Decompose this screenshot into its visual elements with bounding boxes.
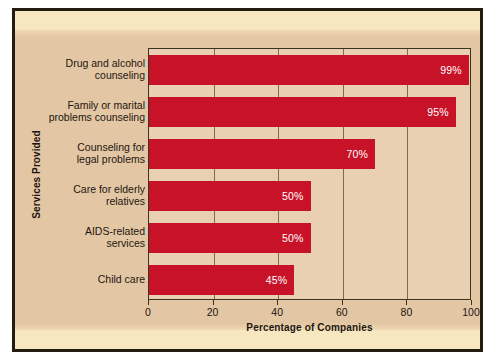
x-tick-label: 40 xyxy=(271,306,283,318)
bar: 95% xyxy=(149,97,456,127)
bar-value-label: 99% xyxy=(440,64,462,76)
x-tick-label: 100 xyxy=(462,306,480,318)
gridline xyxy=(343,49,344,299)
bar-value-label: 45% xyxy=(266,274,288,286)
bar: 50% xyxy=(149,181,311,211)
x-tick-label: 20 xyxy=(207,306,219,318)
bar-value-label: 50% xyxy=(282,190,304,202)
gridline xyxy=(407,49,408,299)
x-tick-mark xyxy=(148,300,149,305)
bar: 70% xyxy=(149,139,375,169)
bar: 99% xyxy=(149,55,469,85)
bar-value-label: 50% xyxy=(282,232,304,244)
gridline xyxy=(278,49,279,299)
x-tick-mark xyxy=(213,300,214,305)
gridline xyxy=(214,49,215,299)
y-axis-tick-label: Child care xyxy=(33,273,145,286)
x-tick-label: 60 xyxy=(336,306,348,318)
y-axis-tick-label: Family or marital problems counseling xyxy=(33,99,145,124)
x-tick-mark xyxy=(342,300,343,305)
y-axis-tick-label: Care for elderly relatives xyxy=(33,183,145,208)
bar-chart: Services Provided Drug and alcohol couns… xyxy=(15,11,480,349)
x-tick-label: 80 xyxy=(401,306,413,318)
bar-value-label: 70% xyxy=(346,148,368,160)
y-axis-tick-label: Counseling for legal problems xyxy=(33,141,145,166)
plot-area: 99%95%70%50%50%45% xyxy=(148,48,471,300)
x-axis-title: Percentage of Companies xyxy=(148,322,471,333)
x-tick-mark xyxy=(471,300,472,305)
y-axis-tick-label: AIDS-related services xyxy=(33,225,145,250)
x-axis-tick-labels: 020406080100 xyxy=(148,300,471,322)
x-tick-mark xyxy=(406,300,407,305)
bar: 45% xyxy=(149,265,294,295)
chart-figure-panel: Services Provided Drug and alcohol couns… xyxy=(12,8,483,352)
y-axis-tick-label: Drug and alcohol counseling xyxy=(33,57,145,82)
x-tick-label: 0 xyxy=(145,306,151,318)
bar-value-label: 95% xyxy=(427,106,449,118)
x-tick-mark xyxy=(277,300,278,305)
y-axis-tick-labels: Drug and alcohol counselingFamily or mar… xyxy=(33,48,145,300)
bar: 50% xyxy=(149,223,311,253)
